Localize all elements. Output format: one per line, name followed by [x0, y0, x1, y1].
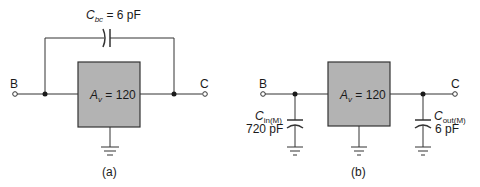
cin-value: 720 pF: [246, 123, 283, 135]
cout-symbol: C: [434, 109, 443, 123]
gain-symbol: A: [340, 88, 348, 102]
circuit-diagram: [0, 0, 480, 187]
junction-dot-a-right: [172, 92, 177, 97]
gain-value: = 120: [105, 88, 135, 102]
gain-label-a: Av = 120: [90, 89, 136, 104]
terminal-b-a: [13, 92, 18, 97]
node-b-label-b: B: [259, 78, 267, 90]
gain-subscript: v: [348, 95, 352, 104]
node-c-label-b: C: [451, 78, 460, 90]
gain-label-b: Av = 120: [340, 89, 386, 104]
junction-dot-b-right: [421, 92, 426, 97]
gain-value: = 120: [355, 88, 385, 102]
terminal-c-a: [203, 92, 208, 97]
junction-dot-a-left: [43, 92, 48, 97]
gain-symbol: A: [90, 88, 98, 102]
cap-symbol: C: [86, 8, 95, 22]
terminal-b-b: [261, 92, 266, 97]
junction-dot-b-left: [293, 92, 298, 97]
gain-subscript: v: [98, 95, 102, 104]
caption-a: (a): [102, 166, 117, 178]
caption-b: (b): [351, 166, 366, 178]
node-b-label-a: B: [10, 78, 18, 90]
node-c-label-a: C: [200, 78, 209, 90]
feedback-cap-label: Cbc = 6 pF: [86, 9, 141, 24]
cap-value: = 6 pF: [106, 8, 140, 22]
terminal-c-b: [453, 92, 458, 97]
cin-symbol: C: [255, 109, 264, 123]
cap-subscript: bc: [95, 15, 103, 24]
cout-value: 6 pF: [435, 123, 459, 135]
